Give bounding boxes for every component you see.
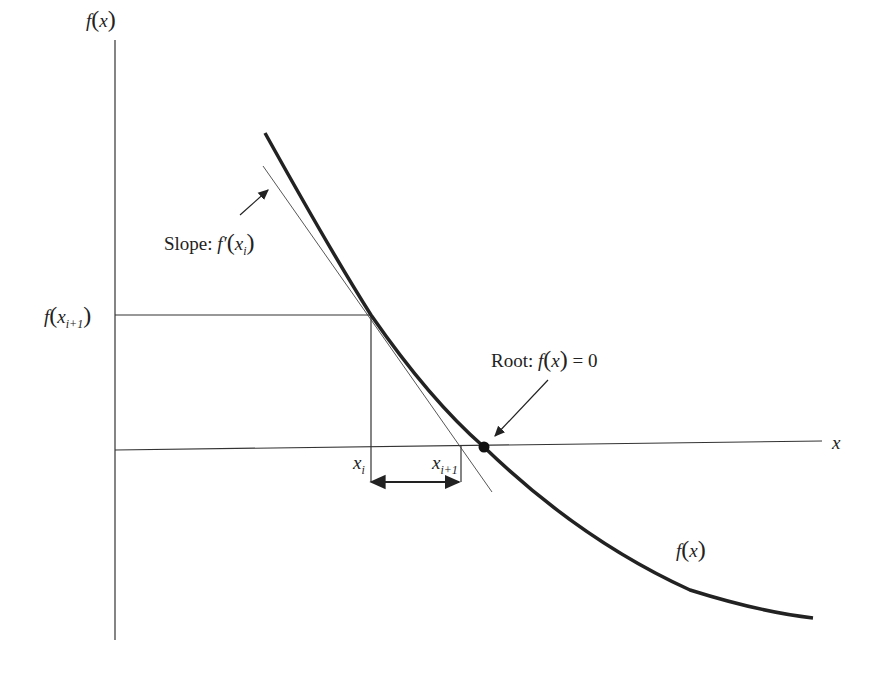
y-axis-label: f(x) [86,6,116,33]
curve-label: f(x) [676,536,706,563]
tangent-line [263,166,492,492]
slope-arrow [240,190,268,215]
slope-label: Slope: f′(xi) [164,229,255,259]
root-point [479,442,490,453]
function-curve [265,133,813,618]
newton-raphson-diagram [0,0,884,677]
x-axis [115,441,822,450]
root-label: Root: f(x) = 0 [491,346,597,373]
root-arrow [495,380,548,436]
f-xi1-label: f(xi+1) [44,302,91,332]
xi1-label: xi+1 [432,452,458,478]
x-axis-label: x [832,432,840,454]
xi-label: xi [353,452,365,478]
